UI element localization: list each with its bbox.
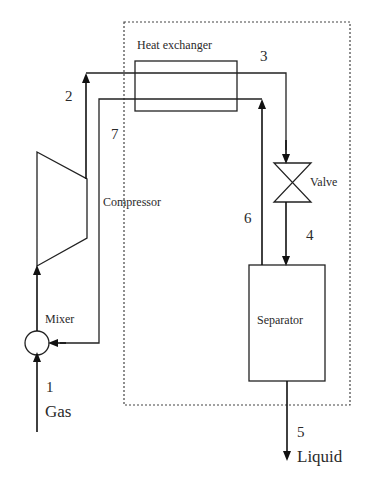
- compressor-label: Compressor: [103, 195, 161, 209]
- stream-6-label: 6: [244, 210, 252, 226]
- mixer-label: Mixer: [45, 312, 74, 326]
- gas-inlet-label: Gas: [45, 402, 71, 421]
- stream-7-path: [60, 99, 262, 343]
- stream-5-label: 5: [297, 424, 305, 440]
- heat-exchanger-label: Heat exchanger: [137, 38, 212, 52]
- process-flow-diagram: Heat exchanger Compressor Valve Mixer Se…: [0, 0, 377, 491]
- valve-shape: [274, 163, 311, 202]
- stream-1-label: 1: [46, 379, 54, 395]
- liquid-outlet-label: Liquid: [297, 447, 343, 466]
- separator-label: Separator: [257, 313, 303, 327]
- stream-3-label: 3: [260, 48, 268, 64]
- valve-label: Valve: [310, 175, 337, 189]
- stream-2-label: 2: [65, 88, 73, 104]
- stream-7-label: 7: [111, 126, 119, 142]
- mixer-shape: [25, 331, 49, 355]
- compressor-shape: [37, 152, 87, 266]
- stream-4-label: 4: [306, 227, 314, 243]
- heat-exchanger-box: [135, 61, 237, 111]
